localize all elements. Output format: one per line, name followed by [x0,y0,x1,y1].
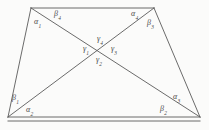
label-gamma-4: γ4 [97,35,103,45]
label-alpha-3: α3 [173,93,180,103]
label-beta-1: β1 [12,94,19,104]
label-gamma-2: γ2 [96,56,102,66]
geometry-figure: α1 β4 α4 β3 γ4 γ1 γ3 γ2 β1 α2 α3 β2 [0,0,209,130]
label-alpha-4: α4 [131,10,138,20]
label-beta-3: β3 [147,19,154,29]
label-beta-4: β4 [54,10,61,20]
label-alpha-2: α2 [26,106,33,116]
diagonal-top-right-to-bottom-left [8,8,154,117]
label-alpha-1: α1 [34,18,41,28]
label-gamma-1: γ1 [83,45,89,55]
label-gamma-3: γ3 [111,45,117,55]
label-beta-2: β2 [160,105,167,115]
